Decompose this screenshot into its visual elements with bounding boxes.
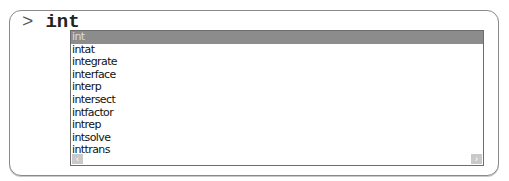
- list-item[interactable]: intrep: [71, 119, 483, 132]
- horizontal-scrollbar[interactable]: ‹ ›: [71, 153, 483, 165]
- prompt-symbol: >: [22, 11, 33, 33]
- autocomplete-list[interactable]: int intat integrate interface interp int…: [70, 30, 484, 166]
- list-item[interactable]: intsolve: [71, 132, 483, 145]
- autocomplete-items: int intat integrate interface interp int…: [71, 31, 483, 157]
- list-item[interactable]: interp: [71, 81, 483, 94]
- scroll-left-icon[interactable]: ‹: [72, 154, 83, 164]
- scroll-right-icon[interactable]: ›: [471, 154, 482, 164]
- list-item[interactable]: interface: [71, 69, 483, 82]
- list-item[interactable]: intfactor: [71, 107, 483, 120]
- list-item[interactable]: integrate: [71, 56, 483, 69]
- list-item[interactable]: int: [71, 31, 483, 44]
- list-item[interactable]: intersect: [71, 94, 483, 107]
- list-item[interactable]: intat: [71, 44, 483, 57]
